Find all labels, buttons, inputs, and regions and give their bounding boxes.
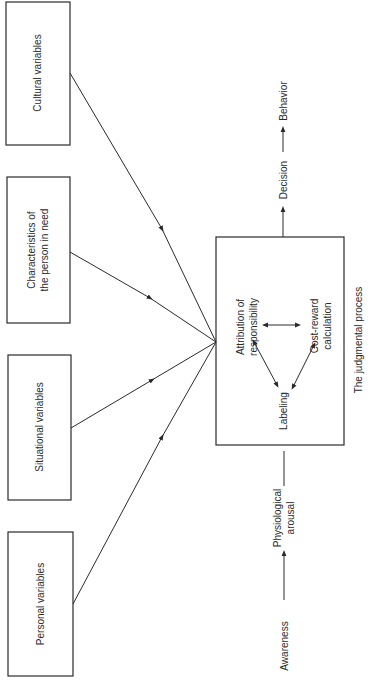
costreward-labeling-arrow xyxy=(293,345,314,387)
judgmental-process-caption: The judgmental process xyxy=(353,287,364,394)
characteristics-label-line2: the person in need xyxy=(39,209,50,292)
cost-reward-label-line2: calculation xyxy=(322,302,333,349)
cultural-variables-box: Cultural variables xyxy=(6,2,70,145)
personal-variables-box: Personal variables xyxy=(8,532,73,676)
judgmental-process-box: Attribution of responsibility Cost-rewar… xyxy=(216,237,344,445)
converging-arrows xyxy=(70,73,216,604)
judgmental-process-diagram: Cultural variables Characteristics of th… xyxy=(0,0,371,680)
cost-reward-label-line1: Cost-reward xyxy=(309,299,320,353)
characteristics-label-line1: Characteristics of xyxy=(26,211,37,288)
cultural-variables-label: Cultural variables xyxy=(32,34,43,111)
decision-label: Decision xyxy=(278,161,289,199)
personal-arrow xyxy=(73,342,216,604)
situational-variables-label: Situational variables xyxy=(34,382,45,472)
behavior-label: Behavior xyxy=(278,81,289,121)
arousal-label-line2: arousal xyxy=(285,502,296,535)
attribution-label-line1: Attribution of xyxy=(235,299,246,355)
situational-arrow xyxy=(71,342,216,428)
awareness-label: Awareness xyxy=(279,621,290,670)
personal-variables-label: Personal variables xyxy=(35,563,46,645)
arousal-label-line1: Physiological xyxy=(272,489,283,547)
cultural-arrow xyxy=(70,73,216,342)
situational-variables-box: Situational variables xyxy=(8,355,71,500)
attribution-labeling-arrow xyxy=(254,342,277,385)
characteristics-box: Characteristics of the person in need xyxy=(7,177,70,323)
labeling-label: Labeling xyxy=(278,392,289,430)
